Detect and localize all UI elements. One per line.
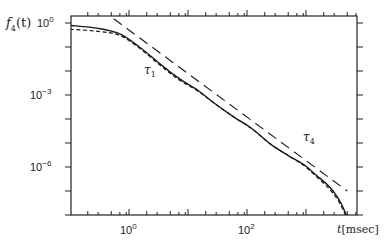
x-tick-1e0: 100 bbox=[120, 222, 137, 236]
y-tick-1e-3: 10−3 bbox=[30, 87, 51, 101]
x-axis-label: t[msec] bbox=[337, 223, 379, 236]
annotation-tau1: τ1 bbox=[144, 63, 156, 79]
annotation-tau4: τ4 bbox=[303, 130, 315, 146]
chart-figure: f4(t) 100 10−3 10−6 100 102 t[msec] τ1 τ… bbox=[0, 0, 384, 242]
plot-area bbox=[0, 0, 384, 242]
x-tick-1e2: 102 bbox=[238, 222, 255, 236]
y-tick-1e-6: 10−6 bbox=[30, 159, 51, 173]
y-tick-1e0: 100 bbox=[37, 15, 54, 29]
plot-frame bbox=[71, 16, 357, 215]
series-longdash bbox=[114, 19, 348, 191]
y-axis-label: f4(t) bbox=[6, 15, 31, 33]
